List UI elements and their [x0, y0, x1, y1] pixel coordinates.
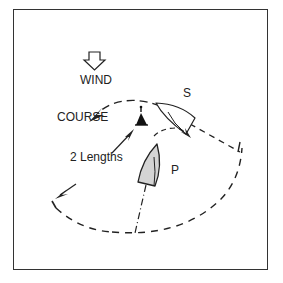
two-lengths-dimension-arrow	[55, 129, 134, 199]
s-path-arrow	[154, 128, 191, 138]
boat-s-icon	[156, 103, 195, 134]
wind-label: WIND	[80, 74, 112, 86]
boat-s-label: S	[183, 87, 191, 99]
two-lengths-label: 2 Lengths	[70, 151, 123, 163]
radial-line-p	[135, 185, 146, 233]
mark-buoy-icon	[135, 106, 148, 125]
radial-line-s	[190, 124, 240, 152]
wind-arrow-icon	[84, 52, 105, 70]
course-label: COURSE	[57, 111, 108, 123]
boat-p-icon	[138, 144, 160, 186]
diagram-canvas	[0, 0, 283, 283]
boat-p-label: P	[171, 164, 179, 176]
